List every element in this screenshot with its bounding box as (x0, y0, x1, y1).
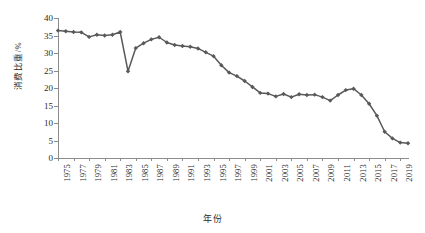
x-tick-label: 2013 (358, 164, 368, 182)
x-tick-mark (338, 158, 339, 161)
x-tick-mark (307, 158, 308, 161)
x-tick-label: 2001 (264, 164, 274, 182)
x-tick-label: 1979 (93, 164, 103, 182)
data-point-marker (266, 91, 270, 95)
data-point-marker (102, 33, 106, 37)
y-tick-label: 40 (44, 13, 53, 23)
x-tick-label: 2009 (326, 164, 336, 182)
x-tick-mark (89, 158, 90, 161)
x-axis-title: 年份 (0, 212, 425, 225)
x-tick-mark (136, 158, 137, 161)
y-tick-label: 15 (44, 101, 53, 111)
x-tick-label: 1991 (186, 164, 196, 182)
x-tick-mark (400, 158, 401, 161)
x-tick-mark (260, 158, 261, 161)
x-tick-mark (369, 158, 370, 161)
x-tick-label: 2005 (295, 164, 305, 182)
x-tick-label: 2019 (404, 164, 414, 182)
data-point-marker (56, 28, 60, 32)
y-axis-title: 消费比重/% (11, 11, 23, 121)
x-tick-label: 1997 (233, 164, 243, 182)
data-point-marker (180, 44, 184, 48)
y-tick-label: 35 (44, 31, 53, 41)
x-tick-mark (120, 158, 121, 161)
data-point-marker (281, 92, 285, 96)
x-tick-label: 1995 (218, 164, 228, 182)
data-point-marker (406, 141, 410, 145)
y-tick-label: 30 (44, 48, 53, 58)
data-point-marker (188, 45, 192, 49)
data-point-marker (320, 95, 324, 99)
x-tick-label: 1987 (155, 164, 165, 182)
x-tick-label: 1999 (249, 164, 259, 182)
plot-area: 0510152025303540 (58, 18, 408, 158)
data-point-marker (118, 30, 122, 34)
x-tick-label: 1977 (78, 164, 88, 182)
data-series-line (58, 18, 408, 158)
x-tick-label: 1989 (171, 164, 181, 182)
data-point-marker (71, 30, 75, 34)
data-point-marker (172, 43, 176, 47)
y-tick-label: 25 (44, 66, 53, 76)
x-tick-mark (276, 158, 277, 161)
data-point-marker (289, 95, 293, 99)
data-point-marker (95, 33, 99, 37)
x-tick-mark (245, 158, 246, 161)
x-tick-label: 2007 (311, 164, 321, 182)
data-point-marker (274, 94, 278, 98)
x-axis-line (58, 158, 409, 159)
data-point-marker (126, 69, 130, 73)
data-point-marker (312, 92, 316, 96)
data-point-marker (110, 33, 114, 37)
x-tick-label: 2011 (342, 164, 352, 182)
y-tick-label: 0 (49, 153, 54, 163)
x-tick-label: 1981 (109, 164, 119, 182)
x-tick-mark (214, 158, 215, 161)
x-tick-label: 2017 (389, 164, 399, 182)
x-tick-mark (198, 158, 199, 161)
x-tick-mark (182, 158, 183, 161)
x-tick-mark (74, 158, 75, 161)
x-tick-mark (58, 158, 59, 161)
x-tick-mark (105, 158, 106, 161)
data-point-marker (297, 92, 301, 96)
y-tick-label: 10 (44, 118, 53, 128)
data-point-marker (305, 93, 309, 97)
x-tick-mark (322, 158, 323, 161)
x-tick-label: 1985 (140, 164, 150, 182)
x-tick-mark (354, 158, 355, 161)
y-tick-label: 20 (44, 83, 53, 93)
x-tick-mark (229, 158, 230, 161)
x-tick-mark (291, 158, 292, 161)
x-tick-mark (151, 158, 152, 161)
series-line (58, 31, 408, 144)
chart-container: 消费比重/% 0510152025303540 1975197719791981… (0, 0, 425, 233)
x-tick-mark (167, 158, 168, 161)
x-tick-label: 1993 (202, 164, 212, 182)
x-tick-mark (385, 158, 386, 161)
x-tick-label: 2003 (280, 164, 290, 182)
data-point-marker (64, 29, 68, 33)
y-tick-label: 5 (49, 136, 54, 146)
x-tick-label: 1975 (62, 164, 72, 182)
x-tick-label: 2015 (373, 164, 383, 182)
x-tick-label: 1983 (124, 164, 134, 182)
